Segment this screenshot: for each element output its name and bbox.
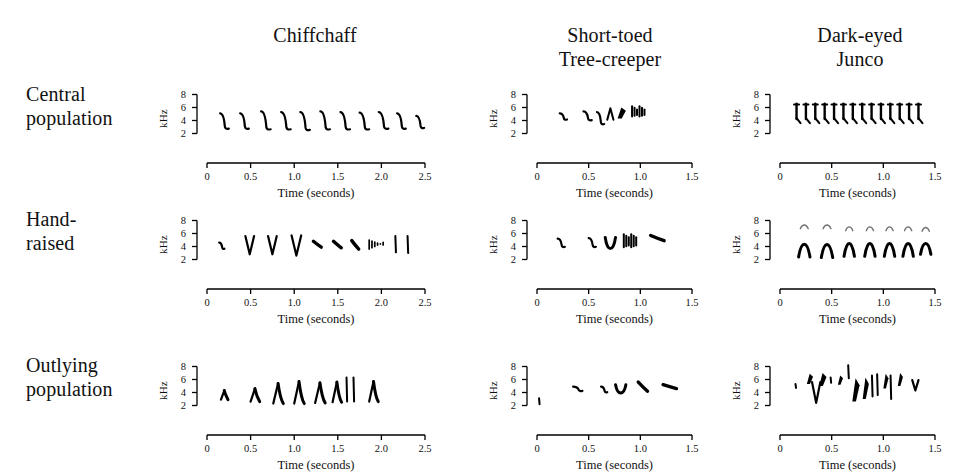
column-heading-treecreeper-line1: Short-toed	[500, 24, 720, 48]
y-axis-tick-label: 8	[181, 215, 186, 226]
y-axis-label: kHz	[730, 109, 742, 128]
x-axis	[537, 288, 694, 298]
x-axis-tick-label: 0.5	[825, 298, 838, 309]
y-axis-tick-label: 2	[754, 254, 759, 265]
row-label-hand-raised-line1: Hand-	[26, 208, 76, 232]
x-axis-tick-label: 0	[204, 298, 209, 309]
x-axis-tick-label: 1.0	[288, 444, 301, 455]
y-axis-tick-label: 8	[754, 89, 759, 100]
x-axis-tick-label: 1.0	[877, 172, 890, 183]
x-axis-tick-label: 0	[777, 298, 782, 309]
x-axis-tick-label: 1.5	[685, 172, 698, 183]
y-axis-tick-label: 2	[754, 128, 759, 139]
x-axis-label: Time (seconds)	[207, 312, 425, 327]
spectrogram-trace	[537, 88, 706, 148]
spectrogram-trace	[780, 88, 949, 148]
y-axis-tick-label: 4	[754, 387, 759, 398]
y-axis-tick-label: 2	[511, 254, 516, 265]
x-axis-tick-label: 1.5	[331, 172, 344, 183]
column-heading-treecreeper-line2: Tree-creeper	[500, 48, 720, 72]
x-axis-tick-label: 1.5	[331, 444, 344, 455]
y-axis-tick-label: 6	[181, 102, 186, 113]
row-label-outlying: Outlying population	[26, 354, 113, 401]
y-axis-tick-label: 2	[754, 400, 759, 411]
y-axis-tick-label: 6	[181, 374, 186, 385]
x-axis-tick-label: 2.0	[375, 298, 388, 309]
x-axis-tick-label: 1.5	[685, 298, 698, 309]
y-axis-tick-label: 8	[511, 361, 516, 372]
row-label-hand-raised-line2: raised	[26, 232, 76, 256]
x-axis-tick-label: 1.5	[928, 172, 941, 183]
x-axis-label: Time (seconds)	[207, 458, 425, 473]
y-axis-tick-label: 6	[511, 102, 516, 113]
spectrogram-trace	[207, 214, 439, 274]
y-axis-tick-label: 2	[181, 128, 186, 139]
y-axis-tick-label: 6	[511, 228, 516, 239]
y-axis-tick-label: 6	[754, 374, 759, 385]
x-axis-tick-label: 1.0	[634, 298, 647, 309]
y-axis	[761, 214, 775, 272]
row-label-outlying-line1: Outlying	[26, 354, 113, 378]
y-axis-tick-label: 8	[754, 215, 759, 226]
x-axis-tick-label: 0	[534, 444, 539, 455]
y-axis-tick-label: 2	[181, 254, 186, 265]
row-label-central-line2: population	[26, 107, 113, 131]
x-axis-tick-label: 1.0	[288, 298, 301, 309]
x-axis	[537, 162, 694, 172]
y-axis-label: kHz	[730, 381, 742, 400]
y-axis-label: kHz	[730, 235, 742, 254]
y-axis-tick-label: 4	[511, 115, 516, 126]
y-axis-tick-label: 4	[754, 115, 759, 126]
x-axis-tick-label: 0.5	[825, 172, 838, 183]
y-axis-label: kHz	[157, 235, 169, 254]
x-axis	[780, 288, 937, 298]
y-axis-tick-label: 4	[181, 115, 186, 126]
y-axis-tick-label: 2	[181, 400, 186, 411]
y-axis-label: kHz	[487, 235, 499, 254]
y-axis-tick-labels: 8642	[747, 360, 759, 412]
column-heading-chiffchaff: Chiffchaff	[200, 24, 430, 48]
x-axis-tick-label: 1.0	[877, 444, 890, 455]
y-axis-tick-labels: 8642	[504, 88, 516, 140]
y-axis-tick-label: 4	[181, 387, 186, 398]
x-axis-tick-label: 1.0	[288, 172, 301, 183]
x-axis-tick-label: 0.5	[244, 444, 257, 455]
y-axis-tick-label: 6	[754, 228, 759, 239]
spectrogram-trace	[537, 214, 706, 274]
x-axis-tick-label: 2.5	[418, 444, 431, 455]
x-axis-tick-label: 1.0	[634, 172, 647, 183]
y-axis-tick-label: 4	[181, 241, 186, 252]
spectrogram-trace	[537, 360, 706, 420]
spectrogram-trace	[207, 360, 439, 420]
spectrogram-trace	[780, 360, 949, 420]
x-axis-tick-label: 0	[777, 172, 782, 183]
x-axis-tick-label: 1.5	[928, 444, 941, 455]
y-axis-tick-label: 4	[511, 241, 516, 252]
x-axis-tick-label: 2.5	[418, 298, 431, 309]
y-axis	[518, 214, 532, 272]
x-axis-tick-label: 0	[777, 444, 782, 455]
y-axis-label: kHz	[487, 109, 499, 128]
x-axis-label: Time (seconds)	[537, 186, 692, 201]
x-axis-tick-label: 0.5	[582, 444, 595, 455]
y-axis-tick-label: 6	[511, 374, 516, 385]
x-axis	[537, 434, 694, 444]
y-axis	[761, 88, 775, 146]
y-axis-label: kHz	[157, 381, 169, 400]
y-axis	[761, 360, 775, 418]
row-label-hand-raised: Hand- raised	[26, 208, 76, 255]
x-axis-tick-label: 2.0	[375, 444, 388, 455]
x-axis-tick-label: 0.5	[582, 172, 595, 183]
x-axis-tick-label: 0	[534, 172, 539, 183]
y-axis-tick-labels: 8642	[174, 88, 186, 140]
x-axis-tick-label: 1.5	[928, 298, 941, 309]
y-axis-tick-labels: 8642	[504, 360, 516, 412]
x-axis-tick-label: 1.0	[877, 298, 890, 309]
y-axis-tick-labels: 8642	[174, 360, 186, 412]
x-axis	[780, 162, 937, 172]
y-axis-tick-label: 8	[511, 215, 516, 226]
x-axis-tick-label: 0.5	[825, 444, 838, 455]
x-axis	[207, 162, 427, 172]
y-axis-tick-label: 4	[754, 241, 759, 252]
x-axis-tick-label: 0	[534, 298, 539, 309]
